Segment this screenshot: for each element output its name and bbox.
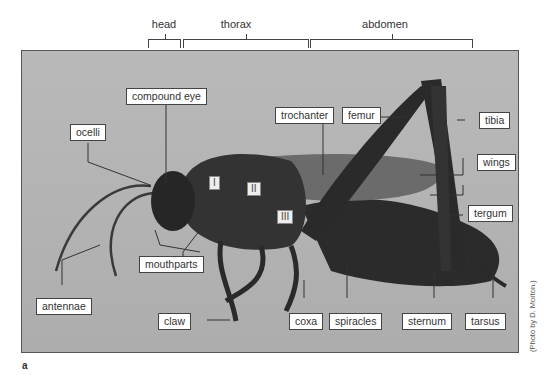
callout-trochanter: trochanter bbox=[275, 107, 334, 124]
callout-sternum: sternum bbox=[402, 313, 452, 330]
callout-tergum: tergum bbox=[468, 205, 513, 222]
callout-tibia: tibia bbox=[479, 112, 510, 129]
thoracic-segment-2: II bbox=[247, 182, 261, 196]
callout-wings: wings bbox=[477, 154, 516, 171]
callout-ocelli: ocelli bbox=[70, 124, 106, 141]
callout-coxa: coxa bbox=[289, 313, 323, 330]
callout-tarsus: tarsus bbox=[465, 313, 506, 330]
callout-antennae: antennae bbox=[36, 298, 92, 315]
photo-credit: (Photo by D. Morton.) bbox=[528, 280, 537, 352]
callout-claw: claw bbox=[158, 313, 191, 330]
callout-spiracles: spiracles bbox=[329, 313, 382, 330]
thoracic-segment-1: I bbox=[209, 176, 220, 190]
figure-label: a bbox=[22, 360, 28, 371]
callout-femur: femur bbox=[342, 107, 381, 124]
callout-compound-eye: compound eye bbox=[126, 88, 207, 105]
callout-mouthparts: mouthparts bbox=[139, 256, 204, 273]
thoracic-segment-3: III bbox=[277, 210, 293, 224]
